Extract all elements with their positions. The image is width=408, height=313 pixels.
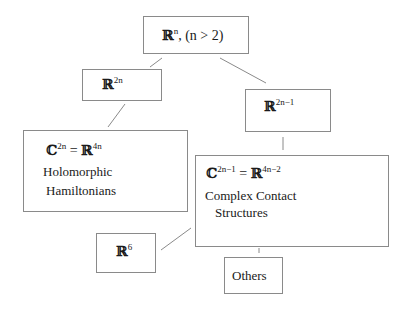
node-r6: ℝ6 bbox=[96, 233, 156, 273]
node-root: ℝn, (n > 2) bbox=[143, 16, 249, 54]
node-holomorphic-hamiltonians: ℂ2n = ℝ4n Holomorphic Hamiltonians bbox=[23, 130, 188, 212]
node-complex-contact-structures: ℂ2n−1 = ℝ4n−2 Complex Contact Structures bbox=[195, 155, 389, 247]
contact-line1: Complex Contact bbox=[205, 188, 296, 204]
node-r2n: ℝ2n bbox=[82, 69, 162, 101]
node-others: Others bbox=[224, 257, 283, 294]
edge-r2n-holo bbox=[108, 104, 125, 127]
node-r2n-1: ℝ2n−1 bbox=[245, 89, 331, 132]
edge-root-r2n1 bbox=[220, 58, 266, 83]
contact-line2: Structures bbox=[215, 205, 268, 221]
holo-line1: Holomorphic bbox=[43, 164, 112, 180]
edge-r6-contact bbox=[161, 228, 191, 250]
holo-line2: Hamiltonians bbox=[46, 183, 116, 199]
root-base: ℝ bbox=[162, 27, 174, 43]
edge-root-r2n bbox=[150, 58, 162, 67]
